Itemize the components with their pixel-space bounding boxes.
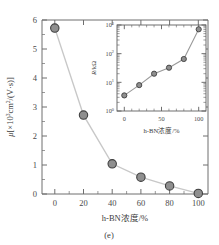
main-ytick-1: 1 <box>33 160 37 170</box>
main-yaxis-label-open: [×10 <box>5 116 15 132</box>
main-yaxis-label-rest: cm <box>5 103 15 114</box>
main-ytick-4: 4 <box>33 73 38 83</box>
main-point-100 <box>194 189 202 197</box>
main-point-20 <box>79 111 87 119</box>
main-ytick-2: 2 <box>33 131 37 141</box>
figure-panel-e: 0 1 2 3 4 5 6 0 20 40 60 80 100 h-BN浓度/%… <box>0 0 219 245</box>
main-point-80 <box>165 182 173 190</box>
inset-background <box>117 25 206 111</box>
main-ytick-6: 6 <box>33 15 37 25</box>
main-yaxis-label-tail: /(V·s)] <box>5 77 15 100</box>
inset-ytick-10e0: 100 <box>106 107 114 115</box>
main-xaxis-label: h-BN浓度/% <box>102 213 148 223</box>
inset-yaxis-label-unit: /kΩ <box>90 61 97 71</box>
figure-caption: (e) <box>104 230 114 240</box>
main-xtick-20: 20 <box>79 198 88 208</box>
inset-ytick-exp-3: 3 <box>112 21 114 26</box>
inset-ytick-exp-2: 2 <box>112 49 114 54</box>
main-yaxis-label: μ[×103cm2/(V·s)] <box>5 77 15 138</box>
svg-text:101: 101 <box>106 78 114 86</box>
inset-point-100 <box>196 27 201 32</box>
inset-point-20 <box>137 83 142 88</box>
inset-ytick-10e1: 101 <box>106 78 114 86</box>
main-xtick-80: 80 <box>165 198 174 208</box>
svg-text:R/kΩ: R/kΩ <box>90 61 97 76</box>
svg-text:103: 103 <box>106 21 114 29</box>
inset-yaxis-label: R/kΩ <box>90 61 97 76</box>
inset-point-60 <box>166 65 171 70</box>
inset-point-40 <box>152 71 157 76</box>
main-ytick-5: 5 <box>33 44 37 54</box>
main-xtick-100: 100 <box>192 198 205 208</box>
inset-xtick-0: 0 <box>123 115 126 122</box>
inset-ytick-exp-0: 0 <box>112 107 114 112</box>
inset-ytick-10e3: 103 <box>106 21 114 29</box>
main-xtick-40: 40 <box>108 198 117 208</box>
main-ytick-3: 3 <box>33 102 37 112</box>
inset-point-0 <box>122 93 127 98</box>
main-ytick-0: 0 <box>33 189 37 199</box>
main-point-60 <box>137 173 145 181</box>
inset-xtick-50: 50 <box>158 115 164 122</box>
svg-text:μ[×103cm2/(V·s)]: μ[×103cm2/(V·s)] <box>5 77 15 138</box>
inset-ytick-exp-1: 1 <box>112 78 114 83</box>
svg-text:100: 100 <box>106 107 114 115</box>
main-xtick-60: 60 <box>137 198 146 208</box>
svg-text:102: 102 <box>106 49 114 57</box>
inset-point-80 <box>181 56 186 61</box>
main-xtick-0: 0 <box>53 198 57 208</box>
inset-xaxis-label: h-BN浓度/% <box>144 126 180 135</box>
inset-xtick-100: 100 <box>194 115 203 122</box>
main-point-0 <box>51 24 59 32</box>
main-point-40 <box>108 160 116 168</box>
inset-ytick-10e2: 102 <box>106 49 114 57</box>
